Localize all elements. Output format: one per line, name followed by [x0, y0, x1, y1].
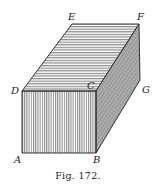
figure-caption: Fig. 172.	[55, 170, 101, 181]
label-B: B	[92, 154, 100, 165]
parallelepiped-figure: E F D C G A B Fig. 172.	[0, 0, 156, 190]
label-G: G	[142, 84, 150, 95]
label-C: C	[87, 80, 95, 91]
label-F: F	[136, 11, 145, 22]
label-D: D	[10, 85, 19, 96]
label-A: A	[13, 154, 21, 165]
label-E: E	[67, 11, 76, 22]
front-face	[22, 91, 96, 153]
